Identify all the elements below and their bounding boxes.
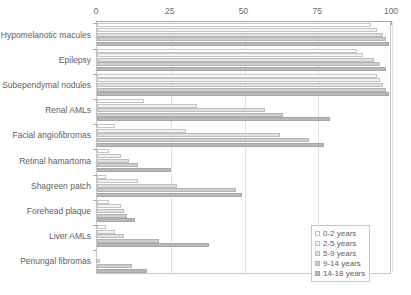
bar [97, 104, 197, 108]
bar [97, 209, 124, 213]
bar [97, 163, 138, 167]
bar [97, 129, 186, 133]
bar [97, 179, 138, 183]
bar [97, 99, 144, 103]
legend-item[interactable]: 2-5 years [315, 239, 365, 248]
category-row: Subependymal nodules [97, 72, 390, 97]
bar [97, 49, 357, 53]
category-row: Forehead plaque [97, 198, 390, 223]
legend-item[interactable]: 9-14 years [315, 259, 365, 268]
legend-item[interactable]: 5-9 years [315, 249, 365, 258]
legend-swatch [315, 241, 320, 246]
legend-label: 9-14 years [323, 259, 361, 268]
category-label: Periungal fibromas [20, 256, 91, 266]
legend-item[interactable]: 14-18 years [315, 269, 365, 278]
category-row: Shagreen patch [97, 173, 390, 198]
bar [97, 193, 242, 197]
legend-swatch [315, 251, 320, 256]
legend-item[interactable]: 0-2 years [315, 229, 365, 238]
bar [97, 204, 121, 208]
x-tick-label: 0 [94, 6, 99, 16]
bar [97, 230, 115, 234]
x-tick-label: 100 [384, 6, 398, 16]
bar [97, 188, 236, 192]
bar [97, 243, 209, 247]
bar [97, 269, 147, 273]
bar [97, 37, 386, 41]
category-label: Forehead plaque [27, 206, 91, 216]
bar [97, 143, 324, 147]
bar [97, 200, 109, 204]
category-label: Subependymal nodules [2, 80, 91, 90]
legend: 0-2 years2-5 years5-9 years9-14 years14-… [311, 225, 370, 282]
category-label: Epilepsy [59, 55, 91, 65]
bar [97, 117, 330, 121]
bar [97, 83, 383, 87]
bar [97, 42, 389, 46]
bar [97, 108, 265, 112]
category-label: Shagreen patch [31, 181, 91, 191]
category-label: Facial angiofibromas [13, 130, 91, 140]
bar [97, 23, 371, 27]
x-tick-label: 75 [313, 6, 322, 16]
category-row: Renal AMLs [97, 98, 390, 123]
bar [97, 214, 127, 218]
bar [97, 28, 377, 32]
bar [97, 175, 106, 179]
gridline [392, 22, 393, 273]
bar [97, 88, 386, 92]
x-tick-label: 25 [165, 6, 174, 16]
category-row: Facial angiofibromas [97, 123, 390, 148]
category-row: Retinal hamartoma [97, 148, 390, 173]
bar [97, 168, 171, 172]
bar-chart: 0255075100 Hypomelanotic maculesEpilepsy… [0, 0, 411, 295]
bar [97, 133, 280, 137]
bar [97, 74, 377, 78]
legend-label: 0-2 years [323, 229, 356, 238]
category-row: Hypomelanotic macules [97, 22, 390, 47]
legend-label: 2-5 years [323, 239, 356, 248]
bar [97, 154, 121, 158]
bar [97, 159, 129, 163]
bar [97, 234, 124, 238]
legend-label: 14-18 years [323, 269, 365, 278]
legend-swatch [315, 261, 320, 266]
bar [97, 53, 363, 57]
category-label: Hypomelanotic macules [1, 30, 91, 40]
category-label: Retinal hamartoma [19, 156, 91, 166]
bar [97, 225, 106, 229]
bar [97, 67, 386, 71]
bar [97, 78, 380, 82]
bar [97, 62, 380, 66]
bar [97, 138, 309, 142]
bar [97, 92, 389, 96]
bar [97, 58, 374, 62]
category-label: Liver AMLs [49, 231, 91, 241]
bar [97, 184, 177, 188]
bar [97, 33, 383, 37]
category-label: Renal AMLs [45, 105, 91, 115]
legend-swatch [315, 271, 320, 276]
category-row: Epilepsy [97, 47, 390, 72]
x-tick-label: 50 [239, 6, 248, 16]
bar [97, 124, 115, 128]
legend-swatch [315, 231, 320, 236]
bar [97, 259, 100, 263]
legend-label: 5-9 years [323, 249, 356, 258]
y-tick [93, 250, 97, 251]
bar [97, 149, 109, 153]
bar [97, 218, 135, 222]
bar [97, 239, 159, 243]
bar [97, 264, 132, 268]
bar [97, 113, 283, 117]
